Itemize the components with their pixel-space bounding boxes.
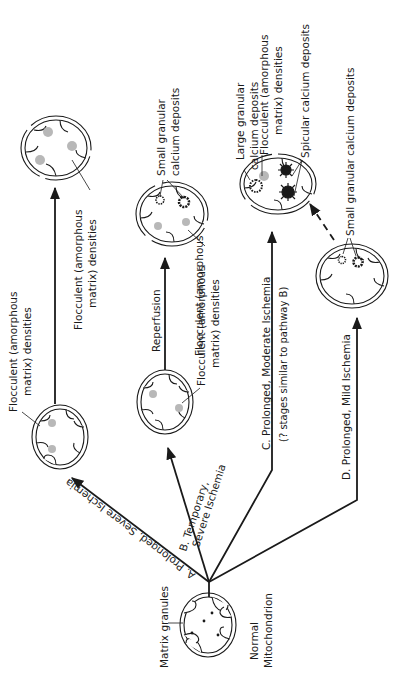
mitochondria-ischemia-diagram: Matrix granules Normal Mitochondrion A. … <box>0 0 406 675</box>
pathway-c-label-line2: (? stages similar to pathway B) <box>278 287 289 442</box>
c-end-floc-line1: Flocculent (amorphous <box>258 35 270 155</box>
b-mid-floc-line2: matrix) densities <box>209 279 221 368</box>
normal-label-line1: Normal <box>248 622 260 660</box>
mito-d-intermediate <box>316 244 388 308</box>
pathway-d-label: D. Prolonged, Mild Ischemia <box>340 334 352 480</box>
c-end-floc-line2: matrix) densities <box>272 46 284 135</box>
a-mid-floc-line2: matrix) densities <box>21 307 33 396</box>
pathway-c-label-line1: C. Prolonged, Moderate Ischemia <box>260 277 272 450</box>
c-end-spicular: Spicular calcium deposits <box>299 24 311 158</box>
matrix-granules-label: Matrix granules <box>158 586 170 668</box>
mito-a-final <box>21 116 91 180</box>
b-end-floc-line1: Flocculent (amorphous <box>193 236 205 356</box>
a-mid-floc-line1: Flocculent (amorphous <box>7 292 19 412</box>
b-end-calcium-line2: calcium deposits <box>169 88 181 176</box>
a-end-floc-line1: Flocculent (amorphous <box>72 210 84 330</box>
mito-a-intermediate <box>32 405 88 469</box>
reperfusion-label: Reperfusion <box>150 289 162 352</box>
a-end-floc-line2: matrix) densities <box>86 219 98 308</box>
d-to-c-dashed-arrow <box>310 204 334 240</box>
normal-label-line2: Mitochondrion <box>262 593 274 668</box>
c-end-large-line1: Large granular <box>234 82 246 160</box>
normal-mitochondrion <box>180 593 236 657</box>
d-small-granular-label: Small granular calcium deposits <box>344 68 356 236</box>
b-end-calcium-line1: Small granular <box>155 98 167 176</box>
mito-b-intermediate <box>137 370 193 434</box>
pathway-a-label: A. Prolonged, Severe Ischemia <box>63 476 198 582</box>
